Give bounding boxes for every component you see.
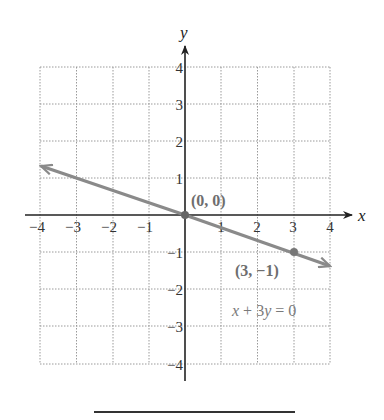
x-tick-label: −4 — [29, 219, 45, 235]
equation-label: x + 3y = 0 — [231, 302, 296, 320]
x-tick-label: 3 — [289, 219, 297, 235]
y-tick-label: 3 — [176, 97, 184, 113]
x-tick-label: 2 — [253, 219, 261, 235]
y-tick-label: 2 — [176, 134, 184, 150]
coordinate-graph: x y −4 −3 −2 −1 1 2 3 4 4 3 2 1 −1 −2 −3… — [0, 0, 384, 420]
equation-equals-0: = 0 — [271, 302, 296, 319]
x-tick-labels: −4 −3 −2 −1 1 2 3 4 — [29, 219, 334, 235]
x-tick-label: 4 — [326, 219, 334, 235]
y-tick-labels: 4 3 2 1 −1 −2 −3 −4 — [167, 60, 183, 373]
point-origin — [181, 211, 189, 219]
point-3-neg1-label: (3, −1) — [235, 262, 279, 280]
equation-var-x: x — [231, 302, 239, 319]
y-tick-label: 1 — [176, 171, 184, 187]
x-tick-label: −1 — [137, 219, 153, 235]
y-tick-label: −4 — [167, 357, 183, 373]
x-axis-label: x — [357, 206, 366, 225]
answer-blank-line — [94, 411, 295, 413]
point-origin-label: (0, 0) — [191, 192, 226, 210]
x-tick-label: −3 — [65, 219, 81, 235]
y-tick-label: −1 — [167, 245, 183, 261]
y-axis-label: y — [178, 23, 188, 42]
y-tick-label: 4 — [176, 60, 184, 76]
equation-plus-3: + 3 — [239, 302, 264, 319]
x-tick-label: −2 — [101, 219, 117, 235]
y-tick-label: −2 — [167, 282, 183, 298]
point-3-neg1 — [290, 248, 298, 256]
y-tick-label: −3 — [167, 319, 183, 335]
